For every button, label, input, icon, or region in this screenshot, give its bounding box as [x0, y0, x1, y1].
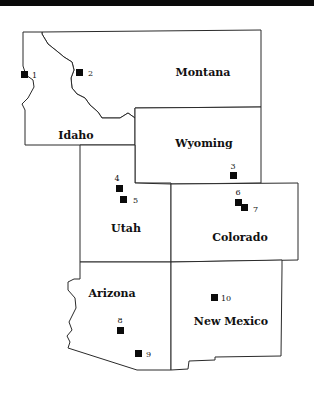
state-label-arizona: Arizona: [87, 287, 135, 300]
svg-text:5: 5: [133, 196, 138, 205]
svg-text:7: 7: [253, 205, 258, 214]
state-label-new-mexico: New Mexico: [194, 315, 268, 328]
svg-text:8: 8: [117, 316, 122, 325]
state-label-utah: Utah: [111, 222, 141, 235]
svg-text:1: 1: [32, 71, 37, 80]
svg-text:10: 10: [221, 294, 231, 303]
state-label-montana: Montana: [176, 66, 231, 79]
svg-text:3: 3: [230, 162, 235, 171]
state-label-idaho: Idaho: [58, 129, 93, 142]
svg-text:9: 9: [146, 350, 151, 359]
state-label-colorado: Colorado: [212, 231, 268, 244]
svg-text:6: 6: [235, 188, 240, 197]
western-states-map: Montana Idaho Wyoming Utah Colorado Ariz…: [0, 0, 314, 394]
state-label-wyoming: Wyoming: [174, 137, 233, 150]
svg-text:4: 4: [114, 174, 119, 183]
svg-text:2: 2: [88, 69, 93, 78]
